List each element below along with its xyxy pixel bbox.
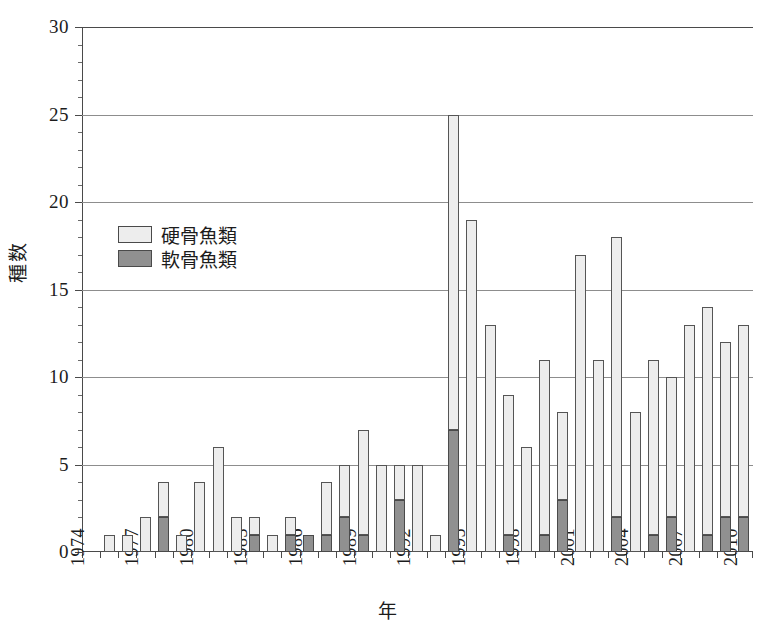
bars-layer	[82, 27, 753, 552]
y-tick-label: 5	[59, 454, 69, 476]
bar-segment-cartilaginous	[611, 517, 622, 552]
bar-segment-bony	[249, 517, 260, 535]
bar-segment-bony	[539, 360, 550, 535]
bar-segment-bony	[448, 115, 459, 430]
bar-stack	[339, 465, 350, 553]
plot-frame: 051015202530 197419771980198319861989199…	[82, 27, 753, 552]
x-tick-mark	[445, 552, 446, 558]
x-tick-mark	[644, 552, 645, 558]
x-tick-mark	[752, 552, 753, 558]
bar-stack	[358, 430, 369, 553]
bar-segment-bony	[158, 482, 169, 517]
x-tick-mark	[535, 552, 536, 558]
bar-segment-bony	[666, 377, 677, 517]
bar-segment-cartilaginous	[648, 535, 659, 553]
bar-segment-cartilaginous	[394, 500, 405, 553]
y-tick-label: 25	[49, 104, 69, 126]
legend-swatch-icon-bony	[118, 226, 152, 243]
y-tick-mark	[75, 27, 82, 28]
y-tick-mark	[75, 377, 82, 378]
x-axis-title: 年	[0, 596, 775, 623]
bar-segment-cartilaginous	[666, 517, 677, 552]
bar-stack	[648, 360, 659, 553]
legend-label-cartilaginous: 軟骨魚類	[161, 245, 237, 272]
y-axis-title: 種数	[3, 241, 30, 283]
bar-segment-bony	[394, 465, 405, 500]
bar-segment-bony	[104, 535, 115, 553]
bar-segment-cartilaginous	[448, 430, 459, 553]
x-tick-mark	[173, 552, 174, 558]
x-tick-mark	[209, 552, 210, 558]
bar-segment-bony	[630, 412, 641, 552]
y-tick-mark	[75, 290, 82, 291]
y-tick-label: 30	[49, 16, 69, 38]
bar-stack	[630, 412, 641, 552]
bar-segment-bony	[176, 535, 187, 553]
bar-stack	[684, 325, 695, 553]
y-tick-mark	[75, 202, 82, 203]
bar-stack	[448, 115, 459, 553]
bar-stack	[303, 535, 314, 553]
legend-item-cartilaginous: 軟骨魚類	[118, 246, 258, 270]
bar-segment-bony	[521, 447, 532, 552]
bar-segment-bony	[267, 535, 278, 553]
bar-stack	[720, 342, 731, 552]
bar-stack	[466, 220, 477, 553]
y-tick-label: 10	[49, 366, 69, 388]
bar-stack	[503, 395, 514, 553]
bar-segment-bony	[593, 360, 604, 553]
bar-segment-bony	[557, 412, 568, 500]
bar-segment-bony	[285, 517, 296, 535]
bar-segment-cartilaginous	[503, 535, 514, 553]
chart-page: 051015202530 197419771980198319861989199…	[0, 0, 775, 637]
bar-segment-cartilaginous	[720, 517, 731, 552]
x-tick-mark	[281, 552, 282, 558]
bar-segment-bony	[321, 482, 332, 535]
y-tick-label: 20	[49, 191, 69, 213]
bar-segment-cartilaginous	[321, 535, 332, 553]
bar-segment-bony	[231, 517, 242, 552]
bar-stack	[575, 255, 586, 553]
bar-stack	[285, 517, 296, 552]
x-tick-mark	[336, 552, 337, 558]
bar-segment-bony	[412, 465, 423, 553]
x-tick-mark	[155, 552, 156, 558]
bar-stack	[376, 465, 387, 553]
bar-stack	[521, 447, 532, 552]
legend-label-bony: 硬骨魚類	[161, 221, 237, 248]
x-tick-mark	[481, 552, 482, 558]
x-tick-mark	[100, 552, 101, 558]
bar-stack	[394, 465, 405, 553]
x-tick-mark	[662, 552, 663, 558]
bar-segment-bony	[503, 395, 514, 535]
x-tick-mark	[699, 552, 700, 558]
x-tick-mark	[227, 552, 228, 558]
x-tick-mark	[372, 552, 373, 558]
x-tick-mark	[608, 552, 609, 558]
legend-item-bony: 硬骨魚類	[118, 222, 258, 246]
bar-segment-bony	[575, 255, 586, 553]
bar-segment-cartilaginous	[358, 535, 369, 553]
y-tick-mark	[75, 465, 82, 466]
bar-segment-cartilaginous	[702, 535, 713, 553]
bar-segment-cartilaginous	[303, 535, 314, 553]
bar-segment-bony	[140, 517, 151, 552]
bar-stack	[412, 465, 423, 553]
bar-segment-bony	[684, 325, 695, 553]
bar-segment-bony	[702, 307, 713, 535]
bar-stack	[158, 482, 169, 552]
bar-stack	[231, 517, 242, 552]
bar-stack	[738, 325, 749, 553]
x-tick-mark	[263, 552, 264, 558]
bar-stack	[611, 237, 622, 552]
bar-stack	[267, 535, 278, 553]
legend-swatch-icon-cartilaginous	[118, 250, 152, 267]
bar-stack	[176, 535, 187, 553]
bar-segment-bony	[194, 482, 205, 552]
bar-segment-bony	[648, 360, 659, 535]
x-tick-mark	[118, 552, 119, 558]
x-tick-mark	[554, 552, 555, 558]
x-tick-mark	[499, 552, 500, 558]
bar-segment-cartilaginous	[285, 535, 296, 553]
bar-stack	[213, 447, 224, 552]
